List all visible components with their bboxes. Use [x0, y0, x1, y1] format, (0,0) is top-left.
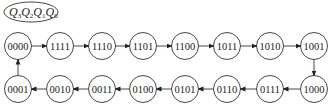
svg-text:0111: 0111: [260, 84, 280, 95]
state-node: 1011: [214, 33, 241, 60]
svg-text:1110: 1110: [92, 41, 112, 52]
svg-text:0011: 0011: [92, 84, 113, 95]
svg-text:1001: 1001: [304, 41, 325, 52]
svg-text:0110: 0110: [217, 84, 238, 95]
svg-text:0001: 0001: [8, 84, 29, 95]
svg-text:0101: 0101: [175, 84, 196, 95]
state-node: 0010: [47, 76, 74, 103]
state-node: 0100: [130, 76, 157, 103]
svg-text:0000: 0000: [8, 41, 29, 52]
state-variable-label: Q3Q2Q1Q0: [4, 2, 58, 22]
state-node: 1100: [172, 33, 199, 60]
svg-text:0010: 0010: [50, 84, 71, 95]
svg-text:Q3Q2Q1Q0: Q3Q2Q1Q0: [9, 5, 58, 20]
state-node: 0110: [214, 76, 241, 103]
state-node: 1001: [301, 33, 328, 60]
state-node: 1010: [257, 33, 284, 60]
svg-text:1011: 1011: [217, 41, 238, 52]
svg-text:1111: 1111: [50, 41, 70, 52]
svg-text:1101: 1101: [133, 41, 154, 52]
svg-text:1000: 1000: [304, 84, 325, 95]
svg-text:1100: 1100: [175, 41, 196, 52]
state-node: 1101: [130, 33, 157, 60]
state-node: 1110: [89, 33, 116, 60]
state-diagram: Q3Q2Q1Q0 0000 1111 1110 1101 1100 1011 1…: [0, 0, 330, 109]
state-node: 1111: [47, 33, 74, 60]
state-node: 0000: [5, 33, 32, 60]
state-node: 0101: [172, 76, 199, 103]
state-node: 0001: [5, 76, 32, 103]
state-node: 1000: [301, 76, 328, 103]
state-node: 0011: [89, 76, 116, 103]
svg-text:0100: 0100: [133, 84, 154, 95]
svg-text:1010: 1010: [260, 41, 281, 52]
state-node: 0111: [257, 76, 284, 103]
